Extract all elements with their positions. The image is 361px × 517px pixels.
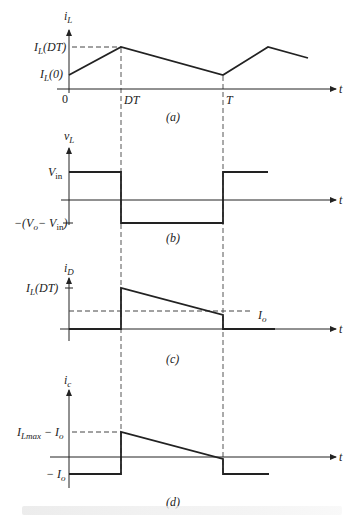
tick-t: T (226, 94, 233, 106)
inductor-current-waveform (69, 47, 308, 75)
tick-vin: Vin (48, 166, 62, 181)
y-axis-label-id: iD (64, 262, 74, 277)
panel-label-a: (a) (166, 111, 180, 123)
tick-id-il-dt: IL(DT) (26, 282, 58, 297)
x-axis-label-t-c: t (339, 323, 342, 335)
tick-dt: DT (124, 94, 139, 106)
level-label-io: Io (258, 309, 267, 324)
x-axis-label-t-b: t (339, 194, 342, 206)
tick-origin: 0 (62, 93, 68, 105)
panel-d (50, 390, 336, 488)
panel-label-b: (b) (166, 232, 180, 244)
panel-c (60, 278, 336, 341)
panel-label-c: (c) (166, 353, 179, 365)
faded-caption (22, 506, 342, 515)
x-axis-label-t-a: t (339, 83, 342, 95)
x-axis-label-t-d: t (339, 451, 342, 463)
tick-neg-vo-vin: −(Vo− Vin) (14, 217, 67, 232)
tick-il-0: IL(0) (40, 68, 63, 83)
y-axis-label-il: iL (64, 10, 72, 25)
inductor-voltage-waveform (69, 172, 268, 223)
y-axis-label-vl: vL (64, 130, 74, 145)
tick-ilmax-minus-io: ILmax − Io (17, 426, 64, 441)
y-axis-label-ic: ic (64, 374, 71, 389)
capacitor-current-waveform (69, 432, 269, 474)
tick-neg-io: − Io (46, 468, 66, 483)
panel-b (61, 148, 336, 225)
tick-il-dt: IL(DT) (34, 41, 66, 56)
diode-current-waveform (69, 288, 275, 329)
panel-a (57, 30, 336, 93)
